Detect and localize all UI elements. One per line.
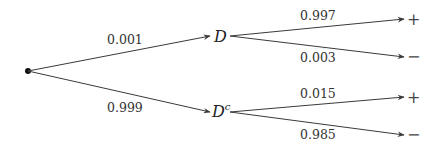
leaf-D-plus: + bbox=[407, 10, 420, 29]
leaf-D-minus: − bbox=[407, 47, 420, 66]
leaf-Dc-plus: + bbox=[407, 88, 420, 107]
prob-D-label: 0.001 bbox=[107, 32, 143, 47]
node-Dc: Dc bbox=[211, 101, 231, 121]
leaf-Dc-minus: − bbox=[407, 125, 420, 144]
prob-Dc-label: 0.999 bbox=[107, 100, 143, 115]
node-Dc-superscript: c bbox=[225, 101, 231, 112]
prob-D-plus-label: 0.997 bbox=[300, 8, 336, 23]
prob-D-minus-label: 0.003 bbox=[300, 50, 336, 65]
prob-Dc-plus-label: 0.015 bbox=[300, 86, 336, 101]
prob-Dc-minus-label: 0.985 bbox=[300, 127, 336, 142]
node-D: D bbox=[213, 27, 227, 46]
probability-tree: 0.001 0.999 D Dc 0.997 0.003 0.015 0.985… bbox=[0, 0, 437, 149]
